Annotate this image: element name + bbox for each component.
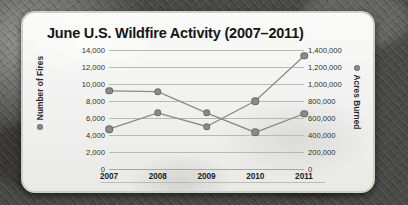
data-point-marker: [203, 123, 211, 131]
chart-title: June U.S. Wildfire Activity (2007–2011): [47, 25, 304, 41]
x-axis-rule: [101, 182, 325, 183]
left-axis-title: Number of Fires: [34, 53, 46, 133]
right-axis-tick-label: 1,400,000: [308, 46, 342, 55]
series-line: [109, 56, 304, 129]
data-point-marker: [105, 87, 113, 95]
left-axis-tick-label: 6,000: [86, 114, 105, 123]
x-axis-tick-label: 2007: [100, 172, 118, 181]
gridline: [109, 169, 304, 170]
x-axis-tick-label: 2008: [149, 172, 167, 181]
plot-area: 14,00012,00010,0008,0006,0004,0002,0000 …: [109, 50, 304, 169]
x-axis-tick-label: 2010: [246, 172, 264, 181]
left-axis-tick-label: 4,000: [86, 131, 105, 140]
right-axis-tick-label: 1,200,000: [308, 63, 342, 72]
data-point-marker: [154, 88, 162, 96]
right-axis-title: Acres Burned: [351, 57, 363, 137]
right-axis-tick-label: 800,000: [308, 97, 335, 106]
right-axis-tick-label: 1,000,000: [308, 80, 342, 89]
data-point-marker: [252, 97, 260, 105]
left-axis-tick-label: 2,000: [86, 148, 105, 157]
left-axis-label-text: Number of Fires: [35, 56, 45, 120]
right-axis-label-text: Acres Burned: [352, 75, 362, 130]
data-point-marker: [252, 129, 260, 137]
left-axis-tick-label: 14,000: [82, 46, 105, 55]
x-axis-tick-label: 2011: [295, 172, 313, 181]
data-point-marker: [300, 52, 308, 60]
chart-panel: June U.S. Wildfire Activity (2007–2011) …: [21, 11, 375, 193]
x-axis-tick-label: 2009: [197, 172, 215, 181]
data-point-marker: [203, 109, 211, 117]
left-axis-tick-label: 8,000: [86, 97, 105, 106]
data-point-marker: [300, 110, 308, 118]
data-point-marker: [154, 109, 162, 117]
left-axis-tick-label: 12,000: [82, 63, 105, 72]
right-axis-tick-label: 400,000: [308, 131, 335, 140]
right-axis-tick-label: 200,000: [308, 148, 335, 157]
series-dot-icon-fires: [37, 124, 43, 130]
left-axis-tick-label: 10,000: [82, 80, 105, 89]
right-axis-tick-label: 600,000: [308, 114, 335, 123]
data-point-marker: [105, 125, 113, 133]
series-dot-icon-acres: [354, 65, 360, 71]
